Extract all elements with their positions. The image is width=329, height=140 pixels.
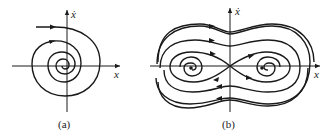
separatrix-loop-right bbox=[230, 52, 290, 82]
panel-b: ẋ x (b) bbox=[150, 5, 320, 131]
flow-arrow-icon bbox=[49, 40, 55, 44]
flow-arrow-icon bbox=[50, 25, 56, 30]
stable-focus-right bbox=[260, 66, 264, 70]
phase-portrait-figure: ẋ x (a) ẋ x (b) bbox=[0, 0, 329, 140]
spiral-trajectory-a bbox=[32, 27, 100, 96]
y-axis-label-b: ẋ bbox=[234, 5, 240, 17]
flow-arrow-icon bbox=[213, 77, 219, 82]
panel-a: ẋ x (a) bbox=[12, 8, 120, 131]
stable-focus-left bbox=[189, 66, 193, 70]
orbit-outer bbox=[156, 26, 310, 104]
x-axis-label-b: x bbox=[313, 68, 319, 80]
caption-a: (a) bbox=[58, 118, 71, 131]
caption-b: (b) bbox=[222, 118, 235, 131]
x-axis-label-a: x bbox=[113, 68, 119, 80]
y-axis-label-a: ẋ bbox=[70, 8, 76, 20]
separatrix-loop-left bbox=[170, 52, 230, 82]
